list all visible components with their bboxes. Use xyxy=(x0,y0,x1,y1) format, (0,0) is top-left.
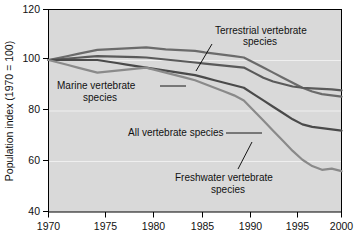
annotation-freshwater-line1: Freshwater vertebrate xyxy=(175,172,273,183)
annotation-freshwater-line2: species xyxy=(211,184,245,195)
annotation-terrestrial-line1: Terrestrial vertebrate xyxy=(215,25,307,36)
y-tick-label-60: 60 xyxy=(28,154,40,166)
x-tick-label-2000: 2000 xyxy=(330,220,354,232)
chart-figure: 120 100 80 60 40 1970 1975 1980 1985 199… xyxy=(0,0,361,239)
annotation-marine-line1: Marine vertebrate xyxy=(57,80,136,91)
y-axis-title: Population index (1970 = 100) xyxy=(3,41,15,181)
x-axis-ticks xyxy=(49,212,342,218)
annotation-terrestrial-line2: species xyxy=(243,36,277,47)
line-chart-svg: 120 100 80 60 40 1970 1975 1980 1985 199… xyxy=(0,0,361,239)
x-tick-label-1990: 1990 xyxy=(239,220,263,232)
y-tick-label-40: 40 xyxy=(28,205,40,217)
y-axis-ticks xyxy=(43,10,49,212)
x-tick-label-1980: 1980 xyxy=(142,220,166,232)
annotation-marine-line2: species xyxy=(83,92,117,103)
y-tick-label-80: 80 xyxy=(28,103,40,115)
x-tick-label-1975: 1975 xyxy=(94,220,118,232)
y-tick-label-120: 120 xyxy=(22,3,40,15)
annotation-all-line1: All vertebrate species xyxy=(128,127,224,138)
x-tick-label-1970: 1970 xyxy=(37,220,61,232)
x-tick-label-1985: 1985 xyxy=(191,220,215,232)
x-tick-label-1995: 1995 xyxy=(286,220,310,232)
y-tick-label-100: 100 xyxy=(22,52,40,64)
